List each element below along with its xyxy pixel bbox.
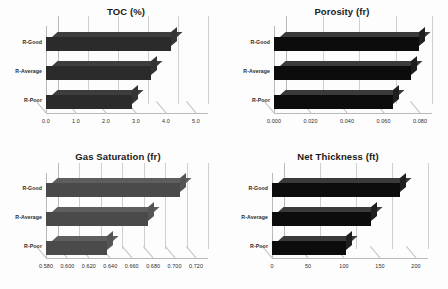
bar-side-face [171,27,177,46]
bar-top-face [52,178,191,183]
bar-side-face [148,202,154,221]
bar-row [274,55,432,84]
figure-canvas: TOC (%) 0.01.02.03.04.05.0 R-PoorR-Avera… [0,0,448,289]
bar-row [272,202,428,231]
x-tick-label: 2.0 [102,118,110,124]
bar [46,241,107,255]
bar-row [272,173,428,202]
bar-top-face [280,61,422,66]
x-tick-label: 0.700 [168,263,182,269]
bar-row [274,85,432,114]
plot-area-gas-saturation: 0.5800.6000.6200.6400.6600.6800.7000.720… [46,173,208,259]
y-category-label: R-Average [241,214,268,220]
x-tick-label: 50 [305,263,311,269]
bar-top-face [52,207,159,212]
bar-side-face [419,27,425,46]
bar [46,66,151,80]
y-category-label: R-Average [243,68,270,74]
bar-side-face [151,56,157,75]
bar-top-face [52,61,163,66]
chart-panel-porosity: Porosity (fr) 0.0000.0200.0400.0600.080 … [224,0,448,144]
bar-side-face [180,173,186,192]
chart-panel-gas-saturation: Gas Saturation (fr) 0.5800.6000.6200.640… [0,145,224,289]
bar [274,66,411,80]
plot-area-net-thickness: 050100150200 R-PoorR-AverageR-Good [272,173,428,259]
x-tick-label: 100 [339,263,348,269]
bar-side-face [411,56,417,75]
chart-title-toc: TOC (%) [0,6,238,17]
bar-side-face [107,231,113,250]
x-tick-label: 200 [411,263,420,269]
x-tick-label: 0.640 [103,263,117,269]
bar-series-porosity [274,26,432,114]
y-category-label: R-Poor [24,243,42,249]
y-category-label: R-Average [15,214,42,220]
y-category-label: R-Average [15,68,42,74]
x-tick-label: 0.080 [413,118,427,124]
y-category-label: R-Good [248,185,268,191]
x-tick-label: 0.580 [39,263,53,269]
y-category-label: R-Good [22,185,42,191]
chart-title-porosity: Porosity (fr) [224,6,448,17]
bar [274,95,393,109]
bar [272,241,346,255]
y-category-label: R-Poor [250,243,268,249]
bar [46,212,148,226]
x-tick-label: 4.0 [162,118,170,124]
x-tick-label: 0.680 [146,263,160,269]
x-tick-label: 0.020 [304,118,318,124]
bar-top-face [52,32,182,37]
x-tick-label: 0.000 [267,118,281,124]
x-tick-label: 0.060 [377,118,391,124]
x-tick-label: 1.0 [72,118,80,124]
bar [46,37,171,51]
gridline [208,163,209,249]
y-category-label: R-Good [250,39,270,45]
bar-side-face [346,231,352,250]
bar-side-face [393,85,399,104]
gridline [432,16,433,104]
bar-side-face [132,85,138,104]
chart-title-net-thickness: Net Thickness (ft) [224,151,448,162]
chart-panel-net-thickness: Net Thickness (ft) 050100150200 R-PoorR-… [224,145,448,289]
bar-row [272,230,428,259]
bar-side-face [400,173,406,192]
bar-side-face [371,202,377,221]
bar-row [274,26,432,55]
bar [274,37,419,51]
y-category-label: R-Poor [252,97,270,103]
x-tick-label: 3.0 [132,118,140,124]
bar-row [46,202,208,231]
x-tick-label: 0.600 [60,263,74,269]
plot-area-porosity: 0.0000.0200.0400.0600.080 R-PoorR-Averag… [274,26,432,114]
x-tick-label: 0.040 [340,118,354,124]
x-tick-label: 0 [270,263,273,269]
bar [272,183,400,197]
chart-panel-toc: TOC (%) 0.01.02.03.04.05.0 R-PoorR-Avera… [0,0,224,144]
bar-top-face [278,178,412,183]
bar-row [46,230,208,259]
bar-top-face [280,32,431,37]
bar-series-toc [46,26,208,114]
bar [46,95,132,109]
gridline [428,163,429,249]
x-tick-label: 150 [375,263,384,269]
x-tick-label: 5.0 [192,118,200,124]
bar-row [46,55,208,84]
bar-top-face [280,90,404,95]
bar-row [46,85,208,114]
y-category-label: R-Poor [24,97,42,103]
x-tick-label: 0.720 [189,263,203,269]
chart-title-gas-saturation: Gas Saturation (fr) [0,151,230,162]
y-category-label: R-Good [22,39,42,45]
bar-row [46,26,208,55]
bar-top-face [52,90,143,95]
x-tick-label: 0.0 [42,118,50,124]
bar-series-net-thickness [272,173,428,259]
plot-area-toc: 0.01.02.03.04.05.0 R-PoorR-AverageR-Good [46,26,208,114]
bar-series-gas-saturation [46,173,208,259]
bar-row [46,173,208,202]
x-tick-label: 0.620 [82,263,96,269]
bar [46,183,180,197]
bar-top-face [278,207,383,212]
